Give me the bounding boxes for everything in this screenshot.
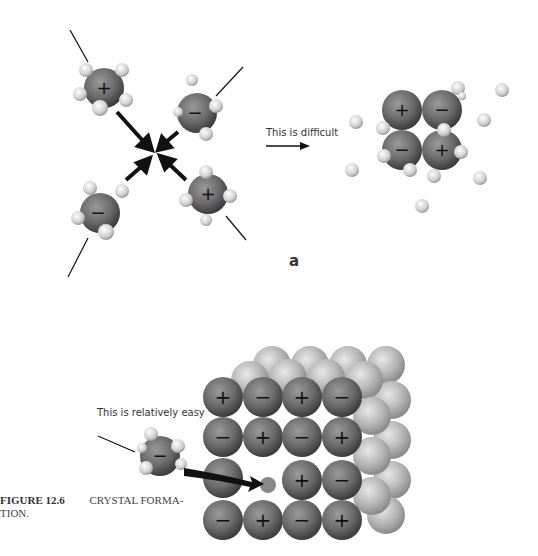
svg-text:−: − <box>215 508 232 532</box>
svg-text:+: + <box>334 425 351 449</box>
crystal-formation-figure: + − − + <box>0 0 538 556</box>
converging-arrows <box>117 112 186 180</box>
charge-minus-icon: − <box>90 202 105 223</box>
hydrated-ion-top-right: − <box>173 67 243 141</box>
svg-text:−: − <box>152 445 167 466</box>
charge-minus-icon: − <box>187 102 202 123</box>
svg-text:−: − <box>334 385 351 409</box>
svg-text:+: + <box>334 508 351 532</box>
easy-label: This is relatively easy <box>97 407 205 418</box>
svg-text:+: + <box>434 139 449 160</box>
svg-text:−: − <box>215 425 232 449</box>
svg-text:+: + <box>294 385 311 409</box>
svg-text:+: + <box>255 508 272 532</box>
caption-text: CRYSTAL FORMA- <box>90 494 184 506</box>
crystal-lattice: +−+− −+−+ +− −+−+ <box>203 346 411 540</box>
incoming-hydrated-ion: − <box>98 427 187 476</box>
figure-number: FIGURE 12.6 <box>0 494 65 506</box>
difficult-arrow <box>266 142 310 150</box>
svg-text:−: − <box>294 508 311 532</box>
hydrated-ion-bottom-right: + <box>179 165 246 240</box>
svg-text:−: − <box>334 468 351 492</box>
hydrated-ion-bottom-left: − <box>68 181 129 277</box>
ion-cluster: + − − + <box>345 81 509 213</box>
svg-text:+: + <box>215 385 232 409</box>
charge-plus-icon: + <box>200 183 215 204</box>
caption-continuation: TION. <box>0 507 29 519</box>
svg-text:−: − <box>255 385 272 409</box>
svg-text:+: + <box>394 99 409 120</box>
svg-text:−: − <box>394 139 409 160</box>
svg-text:+: + <box>255 425 272 449</box>
svg-text:−: − <box>294 425 311 449</box>
charge-plus-icon: + <box>96 77 111 98</box>
figure-caption: FIGURE 12.6 CRYSTAL FORMA- TION. <box>0 494 183 520</box>
difficult-label: This is difficult <box>266 127 338 138</box>
panel-a-label: a <box>289 252 299 270</box>
hydrated-ion-top-left: + <box>70 30 133 116</box>
svg-text:−: − <box>434 99 449 120</box>
svg-text:+: + <box>294 468 311 492</box>
